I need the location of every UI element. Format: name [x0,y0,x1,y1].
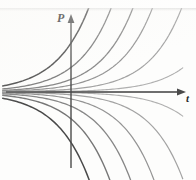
solution-curve [3,95,111,180]
t-axis-label: t [186,93,189,104]
p-axis-label: P [57,12,64,24]
solution-curve [3,93,155,180]
solution-curve [3,0,93,86]
p-axis-arrowhead [68,14,75,23]
plot-canvas [0,0,196,180]
solution-curves-figure: P t [0,0,196,180]
t-axis-arrowhead [177,89,186,96]
solution-curve [3,98,91,180]
solution-curve [3,0,157,91]
curve-layer [3,0,183,180]
